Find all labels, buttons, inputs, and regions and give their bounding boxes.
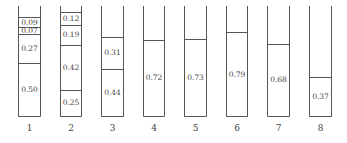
segment-value-label: 0.07: [21, 26, 38, 35]
column-number-label: 7: [276, 123, 282, 133]
segment-value-label: 0.12: [63, 14, 80, 23]
tube-column-5: 0.735: [185, 6, 207, 133]
column-number-label: 5: [193, 123, 199, 133]
tube-column-1: 0.500.270.070.091: [19, 6, 41, 133]
column-number-label: 1: [27, 123, 33, 133]
tube-column-3: 0.440.313: [102, 6, 124, 133]
segment-value-label: 0.27: [21, 44, 38, 53]
segment-value-label: 0.72: [146, 73, 163, 82]
tube-column-4: 0.724: [144, 6, 165, 133]
tube-column-8: 0.378: [310, 6, 332, 133]
tube-column-2: 0.250.420.190.122: [61, 6, 82, 133]
segment-value-label: 0.09: [21, 18, 38, 27]
segment-value-label: 0.73: [187, 73, 204, 82]
column-number-label: 8: [318, 123, 324, 133]
column-number-label: 4: [151, 123, 157, 133]
segment-value-label: 0.79: [229, 70, 246, 79]
segment-value-label: 0.19: [63, 30, 80, 39]
segment-value-label: 0.44: [104, 88, 121, 97]
segment-value-label: 0.68: [270, 75, 287, 84]
stacked-tubes-diagram: 0.500.270.070.0910.250.420.190.1220.440.…: [0, 0, 347, 143]
segment-value-label: 0.42: [63, 63, 80, 72]
segment-value-label: 0.50: [21, 85, 38, 94]
column-number-label: 2: [68, 123, 74, 133]
segment-value-label: 0.25: [63, 98, 80, 107]
tube-column-6: 0.796: [227, 6, 248, 133]
column-number-label: 6: [234, 123, 240, 133]
column-number-label: 3: [110, 123, 116, 133]
segment-value-label: 0.37: [312, 92, 329, 101]
tube-column-7: 0.687: [268, 6, 290, 133]
segment-value-label: 0.31: [104, 48, 121, 57]
